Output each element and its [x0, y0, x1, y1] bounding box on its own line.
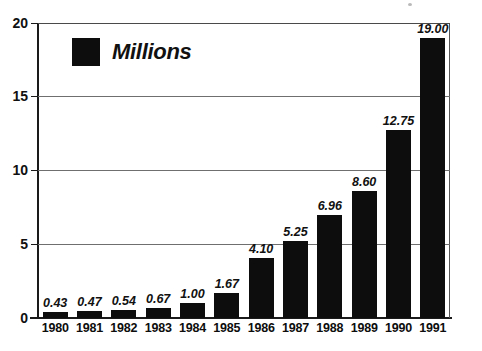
x-axis-label-1986: 1986 [244, 322, 279, 335]
chart-legend: Millions [72, 38, 192, 66]
bar-1984[interactable] [180, 303, 205, 318]
bar-1986[interactable] [249, 258, 274, 319]
bar-value-label-1988: 6.96 [308, 200, 351, 213]
y-tick-mark-10 [31, 170, 38, 171]
y-axis-tick-label: 5 [0, 237, 28, 251]
bar-value-label-1990: 12.75 [377, 115, 420, 128]
y-tick-mark-0 [31, 318, 38, 319]
x-axis-label-1987: 1987 [278, 322, 313, 335]
legend-label-millions: Millions [112, 41, 192, 63]
bar-1990[interactable] [386, 130, 411, 318]
bar-value-label-1987: 5.25 [274, 226, 317, 239]
y-axis-tick-label: 15 [0, 89, 28, 103]
x-axis-label-1983: 1983 [141, 322, 176, 335]
x-axis-label-1982: 1982 [106, 322, 141, 335]
bar-chart-figure: 05101520 0.430.470.540.671.001.674.105.2… [0, 0, 482, 351]
x-axis-label-1981: 1981 [72, 322, 107, 335]
bar-1983[interactable] [146, 308, 171, 318]
bar-value-label-1989: 8.60 [343, 176, 386, 189]
bar-value-label-1986: 4.10 [240, 243, 283, 256]
bar-1988[interactable] [317, 215, 342, 318]
bar-value-label-1991: 19.00 [411, 23, 454, 36]
y-axis-tick-label: 20 [0, 16, 28, 30]
x-axis-label-1985: 1985 [209, 322, 244, 335]
y-tick-mark-20 [31, 23, 38, 24]
bar-1980[interactable] [43, 312, 68, 318]
legend-swatch-millions [72, 38, 100, 66]
x-axis-label-1988: 1988 [312, 322, 347, 335]
x-axis-label-1991: 1991 [415, 322, 450, 335]
bar-1981[interactable] [77, 311, 102, 318]
x-axis-label-1984: 1984 [175, 322, 210, 335]
y-tick-mark-15 [31, 96, 38, 97]
x-axis-label-1989: 1989 [347, 322, 382, 335]
y-axis-tick-label: 0 [0, 311, 28, 325]
scan-artifact-speck [408, 3, 412, 6]
x-axis-label-1980: 1980 [38, 322, 73, 335]
bar-series-millions [38, 23, 450, 318]
y-axis-tick-label: 10 [0, 163, 28, 177]
bar-value-label-1985: 1.67 [205, 278, 248, 291]
bar-1991[interactable] [420, 38, 445, 318]
bar-1989[interactable] [352, 191, 377, 318]
bar-1987[interactable] [283, 241, 308, 318]
bar-1982[interactable] [111, 310, 136, 318]
y-tick-mark-5 [31, 244, 38, 245]
bar-1985[interactable] [214, 293, 239, 318]
x-axis-label-1990: 1990 [381, 322, 416, 335]
